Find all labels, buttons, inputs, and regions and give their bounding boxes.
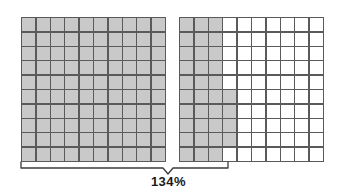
grid-cell-shaded <box>80 33 93 46</box>
grid-cell-empty <box>267 133 280 146</box>
grid-cell-shaded <box>180 33 193 46</box>
grid-cell-shaded <box>137 90 150 103</box>
grid-cell-shaded <box>51 33 64 46</box>
grid-cell-shaded <box>195 133 208 146</box>
grid-cell-empty <box>310 18 323 31</box>
grid-cell-empty <box>238 61 251 74</box>
grid-cell-shaded <box>123 148 136 161</box>
grid-cell-shaded <box>51 105 64 118</box>
grid-cell-shaded <box>195 90 208 103</box>
grid-cell-empty <box>281 61 294 74</box>
grid-cell-empty <box>238 33 251 46</box>
brace-and-label: 134% <box>0 160 337 194</box>
grid-cell-empty <box>223 18 236 31</box>
grid-cell-shaded <box>22 148 35 161</box>
grid-cell-empty <box>281 148 294 161</box>
grid-cell-shaded <box>109 33 122 46</box>
grid-cell-shaded <box>51 76 64 89</box>
grid-cell-shaded <box>123 61 136 74</box>
grid-cell-shaded <box>123 119 136 132</box>
grid-cell-shaded <box>195 33 208 46</box>
grid-cell-empty <box>267 119 280 132</box>
grid-cell-empty <box>295 148 308 161</box>
grid-cell-shaded <box>152 119 165 132</box>
grid-cell-shaded <box>94 18 107 31</box>
grid-cell-shaded <box>209 47 222 60</box>
grid-cell-shaded <box>109 61 122 74</box>
grid-cell-empty <box>310 119 323 132</box>
grid-cell-shaded <box>22 33 35 46</box>
grid-cell-shaded <box>152 61 165 74</box>
grid-cell-empty <box>295 18 308 31</box>
grid-cell-empty <box>281 133 294 146</box>
grid-cell-empty <box>252 90 265 103</box>
grid-cell-shaded <box>94 61 107 74</box>
grid-cell-shaded <box>152 105 165 118</box>
grid-cell-empty <box>267 61 280 74</box>
grid-cell-empty <box>310 33 323 46</box>
grid-cell-empty <box>223 33 236 46</box>
grid-cell-shaded <box>94 105 107 118</box>
grid-cell-shaded <box>137 33 150 46</box>
grid-cell-shaded <box>22 90 35 103</box>
grid-cell-empty <box>238 18 251 31</box>
grid-cell-empty <box>238 133 251 146</box>
grid-cell-shaded <box>22 61 35 74</box>
grid-cell-shaded <box>152 148 165 161</box>
grid-cell-empty <box>238 148 251 161</box>
grid-cell-shaded <box>137 61 150 74</box>
grid-cell-empty <box>310 47 323 60</box>
grid-cell-shaded <box>223 133 236 146</box>
grid-cell-shaded <box>223 119 236 132</box>
grid-cell-empty <box>252 18 265 31</box>
grid-cell-shaded <box>22 76 35 89</box>
grid-cell-empty <box>281 119 294 132</box>
grid-cell-shaded <box>51 133 64 146</box>
percent-label: 134% <box>0 174 337 189</box>
grid-cell-shaded <box>51 61 64 74</box>
grid-cell-shaded <box>195 61 208 74</box>
grids-container <box>0 17 337 162</box>
grid-cell-shaded <box>180 76 193 89</box>
grid-cell-shaded <box>65 61 78 74</box>
grid-cell-empty <box>238 76 251 89</box>
grid-cell-shaded <box>80 133 93 146</box>
grid-cell-empty <box>281 105 294 118</box>
grid-cell-shaded <box>123 33 136 46</box>
grid-cell-shaded <box>152 18 165 31</box>
grid-cell-shaded <box>80 18 93 31</box>
grid-cell-empty <box>310 61 323 74</box>
grid-cell-shaded <box>152 47 165 60</box>
grid-cell-shaded <box>22 105 35 118</box>
grid-cell-empty <box>223 76 236 89</box>
grid-cell-shaded <box>180 47 193 60</box>
grid-cell-shaded <box>65 47 78 60</box>
grid-cell-shaded <box>65 33 78 46</box>
grid-cell-shaded <box>123 18 136 31</box>
grid-cell-shaded <box>37 148 50 161</box>
grid-cell-shaded <box>37 133 50 146</box>
grid-cell-shaded <box>209 119 222 132</box>
grid-cell-shaded <box>37 90 50 103</box>
grid-cell-empty <box>223 148 236 161</box>
grid-cell-shaded <box>65 76 78 89</box>
grid-cell-shaded <box>152 90 165 103</box>
grid-cell-shaded <box>137 47 150 60</box>
grid-cell-empty <box>267 47 280 60</box>
grid-cell-shaded <box>223 90 236 103</box>
grid-cell-shaded <box>152 33 165 46</box>
grid-cell-shaded <box>51 119 64 132</box>
grid-cell-empty <box>267 18 280 31</box>
grid-cell-empty <box>295 47 308 60</box>
grid-cell-shaded <box>137 148 150 161</box>
grid-cell-empty <box>252 133 265 146</box>
grid-cell-empty <box>310 90 323 103</box>
grid-cell-shaded <box>137 18 150 31</box>
grid-cell-shaded <box>80 90 93 103</box>
grid-cell-shaded <box>123 133 136 146</box>
grid-cell-shaded <box>65 90 78 103</box>
grid-cell-shaded <box>137 119 150 132</box>
grid-cell-shaded <box>80 61 93 74</box>
grid-cell-shaded <box>65 119 78 132</box>
grid-cell-shaded <box>195 105 208 118</box>
